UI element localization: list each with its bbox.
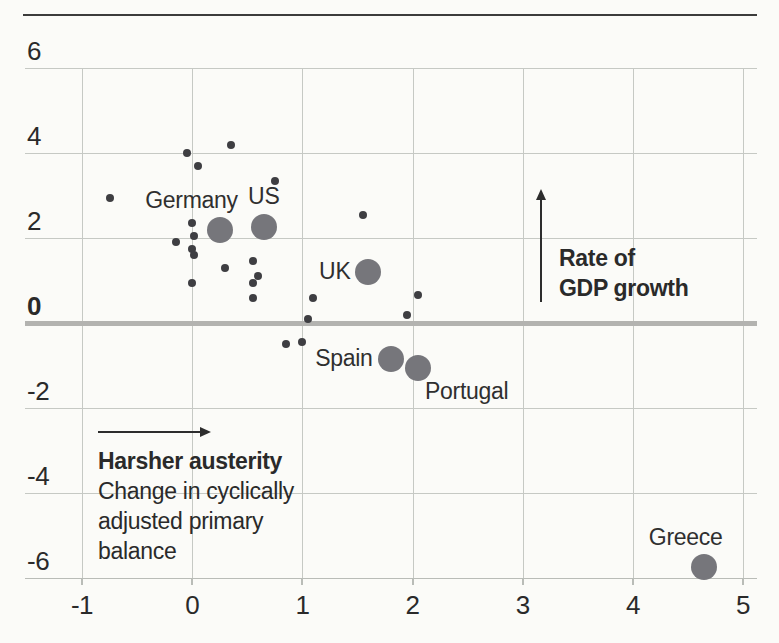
austerity-line3: balance <box>98 536 294 566</box>
data-point <box>403 311 411 319</box>
country-point-germany <box>207 217 233 243</box>
y-tick-label-2: 2 <box>27 208 41 234</box>
country-label-greece: Greece <box>649 524 723 551</box>
gridline-y--6 <box>25 578 757 579</box>
data-point <box>304 315 312 323</box>
x-tick-label-3: 3 <box>516 592 530 618</box>
y-tick-label-4: 4 <box>27 123 41 149</box>
data-point <box>249 257 257 265</box>
data-point <box>271 177 279 185</box>
y-tick-label-6: 6 <box>27 38 41 64</box>
x-tick-mark-2 <box>412 578 414 585</box>
top-border-rule <box>23 14 757 16</box>
gdp-growth-annotation: Rate of GDP growth <box>559 243 688 303</box>
country-point-us <box>251 214 277 240</box>
gdp-growth-line1: Rate of <box>559 243 688 273</box>
right-arrow-icon <box>98 427 211 438</box>
gridline-y-2 <box>25 238 757 239</box>
x-tick-mark-0 <box>191 578 193 585</box>
gdp-growth-line2: GDP growth <box>559 273 688 303</box>
x-tick-mark--1 <box>81 578 83 585</box>
zero-baseline <box>25 321 757 326</box>
data-point <box>249 279 257 287</box>
gridline-y-4 <box>25 153 757 154</box>
gridline-y--2 <box>25 408 757 409</box>
data-point <box>249 294 257 302</box>
data-point <box>172 238 180 246</box>
data-point <box>194 162 202 170</box>
data-point <box>282 340 290 348</box>
scatter-chart: -10123456420-2-4-6GermanyUSUKSpainPortug… <box>0 0 779 643</box>
country-label-portugal: Portugal <box>425 378 508 405</box>
x-tick-label-5: 5 <box>736 592 750 618</box>
country-label-us: US <box>248 183 279 210</box>
x-tick-label-0: 0 <box>185 592 199 618</box>
y-tick-label-0: 0 <box>27 293 41 319</box>
up-arrow-head <box>536 189 546 200</box>
x-tick-mark-4 <box>632 578 634 585</box>
x-tick-mark-5 <box>742 578 744 585</box>
x-tick-label--1: -1 <box>71 592 93 618</box>
data-point <box>188 219 196 227</box>
x-tick-label-4: 4 <box>626 592 640 618</box>
data-point <box>221 264 229 272</box>
data-point <box>227 141 235 149</box>
data-point <box>298 338 306 346</box>
up-arrow-shaft <box>540 197 542 302</box>
x-tick-mark-3 <box>522 578 524 585</box>
right-arrow-head <box>200 427 211 437</box>
data-point <box>188 279 196 287</box>
country-label-uk: UK <box>319 258 350 285</box>
country-label-spain: Spain <box>315 345 372 372</box>
country-point-uk <box>355 259 381 285</box>
austerity-line2: adjusted primary <box>98 506 294 536</box>
x-tick-label-2: 2 <box>406 592 420 618</box>
y-tick-label--4: -4 <box>27 463 49 489</box>
data-point <box>183 149 191 157</box>
y-tick-label--6: -6 <box>27 548 49 574</box>
x-tick-label-1: 1 <box>295 592 309 618</box>
right-arrow-shaft <box>98 431 203 433</box>
country-point-spain <box>378 346 404 372</box>
data-point <box>414 291 422 299</box>
data-point <box>359 211 367 219</box>
up-arrow-icon <box>536 189 547 302</box>
data-point <box>309 294 317 302</box>
austerity-bold-line: Harsher austerity <box>98 446 294 476</box>
x-tick-mark-1 <box>301 578 303 585</box>
austerity-annotation: Harsher austerity Change in cyclically a… <box>98 446 294 566</box>
country-point-greece <box>691 554 717 580</box>
y-tick-label--2: -2 <box>27 378 49 404</box>
data-point <box>106 194 114 202</box>
data-point <box>190 232 198 240</box>
austerity-line1: Change in cyclically <box>98 476 294 506</box>
gridline-y-6 <box>25 68 757 69</box>
data-point <box>190 251 198 259</box>
country-label-germany: Germany <box>145 187 237 214</box>
